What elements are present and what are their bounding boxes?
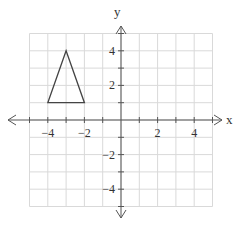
x-tick-label: −4 [41,126,54,140]
x-tick-label: −2 [78,126,91,140]
coordinate-plane: −4−22442−2−4 x y [0,0,245,228]
x-tick-label: 2 [155,126,161,140]
y-tick-label: −2 [102,148,115,162]
y-axis-label: y [114,4,121,19]
y-tick-label: 4 [109,44,115,58]
y-tick-label: 2 [109,78,115,92]
y-tick-label: −4 [102,182,115,196]
x-tick-label: 4 [191,126,197,140]
x-axis-label: x [226,112,233,127]
